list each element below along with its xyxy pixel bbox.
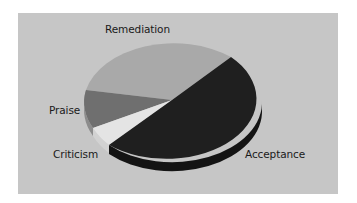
label-criticism: Criticism: [53, 148, 98, 160]
pie-chart: [0, 0, 357, 203]
label-remediation: Remediation: [105, 23, 170, 35]
label-praise: Praise: [49, 104, 80, 116]
label-acceptance: Acceptance: [245, 148, 305, 160]
